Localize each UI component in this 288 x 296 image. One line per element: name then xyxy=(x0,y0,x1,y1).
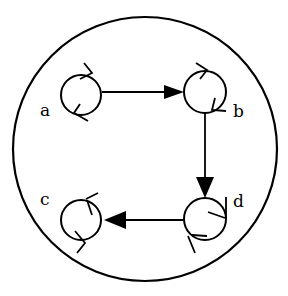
node-a-label: a xyxy=(40,100,50,120)
edge-a-to-b xyxy=(102,85,184,99)
node-a: a xyxy=(40,63,101,121)
node-d-label: d xyxy=(233,191,244,211)
node-b-circle xyxy=(184,71,226,113)
node-b: b xyxy=(184,63,244,121)
arrowhead-icon xyxy=(104,211,126,229)
node-c-circle xyxy=(61,200,101,240)
edge-d-to-c xyxy=(104,211,184,229)
node-c-label: c xyxy=(40,189,50,209)
node-d-circle xyxy=(184,198,226,240)
arrowhead-icon xyxy=(196,177,214,198)
node-a-circle xyxy=(61,75,101,115)
node-d: d xyxy=(184,191,244,253)
node-c: c xyxy=(40,189,101,253)
node-c-self-loop-icon xyxy=(75,193,98,253)
node-b-label: b xyxy=(233,101,244,121)
arrowhead-icon xyxy=(164,85,184,99)
outer-boundary-circle xyxy=(13,17,277,281)
edge-b-to-d xyxy=(196,113,214,198)
state-diagram: a b d c xyxy=(0,0,288,296)
